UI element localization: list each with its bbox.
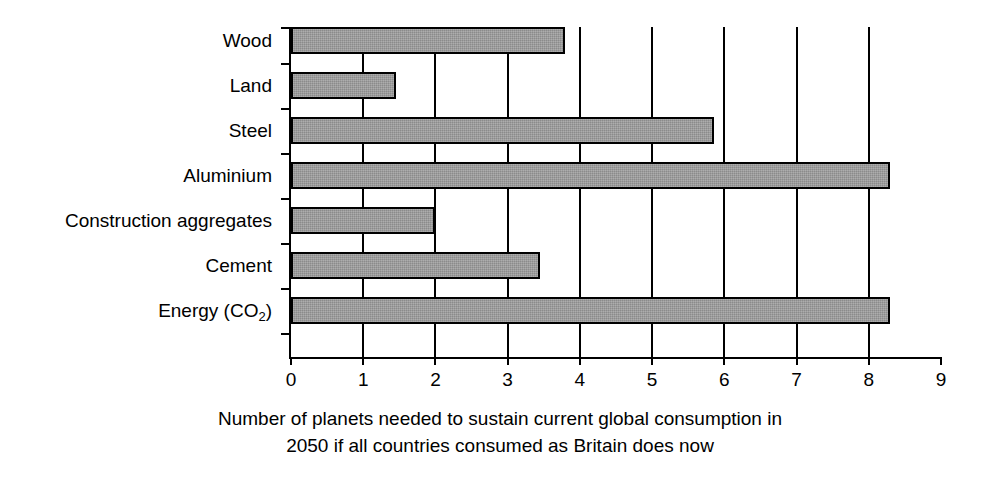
chart-caption: Number of planets needed to sustain curr…	[180, 405, 820, 459]
category-label-construction-aggregates: Construction aggregates	[65, 207, 272, 234]
y-tick-4	[281, 198, 291, 200]
energy-label-suffix: )	[266, 300, 272, 321]
y-tick-7	[281, 333, 291, 335]
plot-area: 0123456789	[291, 27, 941, 357]
bar-cement	[291, 252, 540, 279]
x-tick-5	[651, 357, 653, 365]
x-tick-9	[940, 357, 942, 365]
x-tick-3	[507, 357, 509, 365]
x-tick-label-9: 9	[926, 369, 956, 391]
caption-line-1: Number of planets needed to sustain curr…	[180, 405, 820, 432]
y-tick-2	[281, 108, 291, 110]
x-tick-label-5: 5	[637, 369, 667, 391]
caption-line-2: 2050 if all countries consumed as Britai…	[180, 432, 820, 459]
x-tick-label-1: 1	[348, 369, 378, 391]
bar-wood	[291, 27, 565, 54]
y-tick-5	[281, 243, 291, 245]
x-tick-label-8: 8	[854, 369, 884, 391]
y-tick-1	[281, 63, 291, 65]
x-tick-7	[796, 357, 798, 365]
bar-aluminium	[291, 162, 890, 189]
category-label-steel: Steel	[229, 117, 272, 144]
x-tick-label-7: 7	[782, 369, 812, 391]
x-tick-8	[868, 357, 870, 365]
x-tick-0	[290, 357, 292, 365]
x-tick-4	[579, 357, 581, 365]
bar-chart-figure: Wood Land Steel Aluminium Construction a…	[0, 0, 982, 483]
bar-steel	[291, 117, 714, 144]
x-tick-1	[362, 357, 364, 365]
category-label-wood: Wood	[223, 27, 272, 54]
x-tick-label-0: 0	[276, 369, 306, 391]
category-label-energy-co2: Energy (CO2)	[158, 297, 272, 324]
category-axis-labels: Wood Land Steel Aluminium Construction a…	[0, 27, 282, 357]
x-tick-label-4: 4	[565, 369, 595, 391]
category-label-cement: Cement	[205, 252, 272, 279]
x-tick-label-2: 2	[420, 369, 450, 391]
category-label-aluminium: Aluminium	[183, 162, 272, 189]
x-tick-2	[434, 357, 436, 365]
energy-label-prefix: Energy (CO	[158, 300, 258, 321]
bar-construction-aggregates	[291, 207, 435, 234]
x-tick-label-3: 3	[493, 369, 523, 391]
bar-land	[291, 72, 396, 99]
category-label-land: Land	[230, 72, 272, 99]
y-tick-3	[281, 153, 291, 155]
energy-label-subscript: 2	[258, 309, 265, 324]
x-axis-line	[289, 357, 941, 359]
y-tick-0	[281, 27, 291, 29]
x-tick-label-6: 6	[709, 369, 739, 391]
bar-energy-co2	[291, 297, 890, 324]
x-tick-6	[723, 357, 725, 365]
y-tick-6	[281, 288, 291, 290]
